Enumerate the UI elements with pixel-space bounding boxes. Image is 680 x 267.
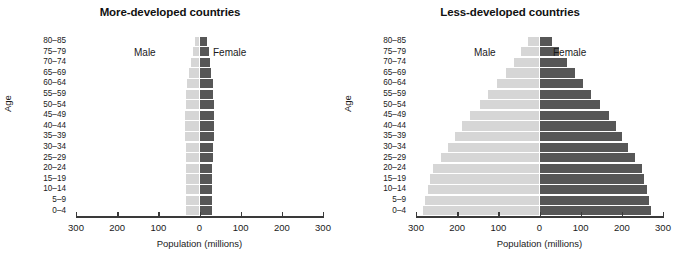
bar-row	[416, 57, 663, 68]
age-tick-label: 40–44	[43, 121, 66, 132]
age-tick-label: 60–64	[383, 78, 406, 89]
age-tick-label: 50–54	[383, 100, 406, 111]
bar-male	[441, 153, 540, 162]
series-label-male: Male	[474, 47, 496, 58]
bar-female	[200, 143, 214, 152]
age-tick-labels: 80–8575–7970–7465–6960–6455–5950–5445–49…	[340, 36, 410, 216]
x-tick-label: 0	[197, 222, 202, 233]
age-tick-label: 25–29	[383, 153, 406, 164]
bar-male	[528, 37, 540, 46]
bar-female	[200, 196, 213, 205]
age-tick-label: 30–34	[383, 142, 406, 153]
bar-row	[416, 100, 663, 111]
age-tick-label: 30–34	[43, 142, 66, 153]
x-tick-mark	[663, 212, 664, 218]
bar-female	[200, 47, 209, 56]
bar-row	[416, 142, 663, 153]
bar-row	[416, 110, 663, 121]
bar-male	[433, 164, 539, 173]
series-label-female: Female	[213, 47, 246, 58]
bar-male	[189, 68, 199, 77]
age-tick-label: 45–49	[43, 110, 66, 121]
panel-title: Less-developed countries	[340, 6, 680, 18]
bar-female	[200, 68, 212, 77]
bar-row	[416, 163, 663, 174]
x-tick-mark	[282, 212, 283, 218]
x-tick-label: 100	[233, 222, 249, 233]
age-tick-label: 45–49	[383, 110, 406, 121]
age-tick-label: 0–4	[392, 206, 406, 217]
bar-male	[430, 174, 540, 183]
x-tick-label: 300	[68, 222, 84, 233]
bar-row	[76, 47, 323, 58]
x-tick-mark	[540, 212, 541, 218]
bar-male	[186, 196, 199, 205]
bar-row	[76, 78, 323, 89]
bar-male	[187, 79, 199, 88]
bar-female	[200, 185, 213, 194]
bar-male	[186, 206, 199, 215]
bar-female	[540, 185, 647, 194]
bar-female	[200, 164, 213, 173]
bar-female	[540, 206, 652, 215]
age-tick-label: 50–54	[43, 100, 66, 111]
bar-row	[416, 153, 663, 164]
bar-male	[186, 100, 200, 109]
bar-row	[76, 89, 323, 100]
x-axis-title: Population (millions)	[76, 238, 323, 249]
age-tick-label: 55–59	[43, 89, 66, 100]
x-tick-mark	[241, 212, 242, 218]
age-tick-label: 80–85	[383, 36, 406, 47]
bar-male	[423, 206, 540, 215]
bar-male	[488, 90, 539, 99]
bar-male	[521, 47, 540, 56]
bar-female	[200, 100, 214, 109]
age-tick-label: 40–44	[383, 121, 406, 132]
bar-rows	[76, 36, 323, 216]
x-axis-title: Population (millions)	[416, 238, 663, 249]
age-tick-label: 70–74	[43, 57, 66, 68]
bar-male	[186, 153, 200, 162]
age-tick-label: 15–19	[43, 174, 66, 185]
bar-male	[186, 143, 200, 152]
bar-male	[428, 185, 540, 194]
plot-area	[76, 36, 323, 216]
bar-row	[416, 195, 663, 206]
bar-row	[416, 89, 663, 100]
bar-male	[191, 58, 200, 67]
bar-row	[76, 174, 323, 185]
age-tick-label: 65–69	[383, 68, 406, 79]
bar-male	[514, 58, 540, 67]
bar-male	[186, 185, 200, 194]
bar-row	[76, 142, 323, 153]
bar-female	[200, 174, 213, 183]
bar-row	[76, 184, 323, 195]
bar-female	[540, 196, 650, 205]
bar-female	[540, 111, 609, 120]
bar-row	[416, 174, 663, 185]
bar-male	[506, 68, 540, 77]
x-tick-label: 100	[490, 222, 506, 233]
bar-row	[76, 195, 323, 206]
bar-female	[200, 79, 213, 88]
x-tick-label: 100	[573, 222, 589, 233]
bar-female	[200, 58, 210, 67]
panel-less-developed: Less-developed countries Age 80–8575–797…	[340, 0, 680, 267]
bar-male	[470, 111, 539, 120]
bar-female	[200, 153, 213, 162]
bar-female	[200, 206, 212, 215]
bar-row	[76, 57, 323, 68]
bar-row	[76, 153, 323, 164]
age-tick-label: 80–85	[43, 36, 66, 47]
age-tick-label: 10–14	[43, 184, 66, 195]
x-axis-line	[76, 216, 323, 218]
bar-female	[540, 79, 584, 88]
bar-row	[76, 36, 323, 47]
bar-male	[480, 100, 540, 109]
x-tick-mark	[323, 212, 324, 218]
age-tick-label: 60–64	[43, 78, 66, 89]
bar-male	[186, 174, 199, 183]
age-tick-label: 10–14	[383, 184, 406, 195]
bar-row	[76, 100, 323, 111]
x-tick-mark	[581, 212, 582, 218]
